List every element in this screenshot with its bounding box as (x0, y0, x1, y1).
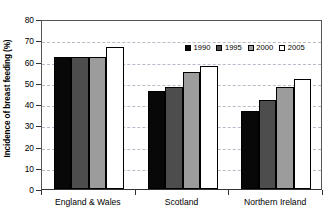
legend-item-2000: 2000 (248, 43, 273, 52)
x-axis-category-label: Northern Ireland (244, 197, 306, 207)
y-axis-tick-label: 50 (4, 79, 34, 89)
legend-swatch-icon (279, 45, 285, 51)
legend-item-1995: 1995 (216, 43, 241, 52)
bar-scotland-1990 (148, 91, 166, 189)
bar-chart: Incidence of breast feeding (%) 01020304… (0, 0, 335, 216)
y-axis-tick-label: 0 (4, 185, 34, 195)
x-axis-tick (322, 190, 323, 195)
legend-swatch-icon (216, 45, 222, 51)
bar-england-wales-2005 (106, 47, 124, 189)
bar-northern-ireland-1990 (241, 111, 259, 189)
y-axis-tick-label: 80 (4, 15, 34, 25)
x-axis-category-label: England & Wales (55, 197, 121, 207)
bar-england-wales-1990 (54, 57, 72, 189)
x-axis-tick (41, 190, 42, 195)
bar-scotland-1995 (165, 87, 183, 189)
bar-northern-ireland-2000 (276, 87, 294, 189)
legend-label: 2000 (256, 43, 273, 52)
legend-label: 1995 (225, 43, 242, 52)
legend-item-2005: 2005 (279, 43, 304, 52)
y-axis-tick-label: 30 (4, 121, 34, 131)
x-axis-tick (228, 190, 229, 195)
y-axis-tick-label: 20 (4, 143, 34, 153)
legend-label: 2005 (288, 43, 305, 52)
legend-item-1990: 1990 (185, 43, 210, 52)
x-axis-tick (135, 190, 136, 195)
y-axis-tick-label: 60 (4, 58, 34, 68)
chart-legend: 1990199520002005 (185, 43, 305, 52)
legend-label: 1990 (194, 43, 211, 52)
legend-swatch-icon (185, 45, 191, 51)
bar-scotland-2000 (183, 72, 201, 189)
y-axis-tick-label: 40 (4, 100, 34, 110)
y-axis-tick-label: 70 (4, 36, 34, 46)
bar-scotland-2005 (200, 66, 218, 189)
x-axis-category-label: Scotland (165, 197, 198, 207)
bar-england-wales-2000 (89, 57, 107, 189)
y-axis-tick-label: 10 (4, 164, 34, 174)
bar-northern-ireland-2005 (294, 79, 312, 190)
bar-england-wales-1995 (71, 57, 89, 189)
legend-swatch-icon (248, 45, 254, 51)
bar-northern-ireland-1995 (259, 100, 277, 189)
